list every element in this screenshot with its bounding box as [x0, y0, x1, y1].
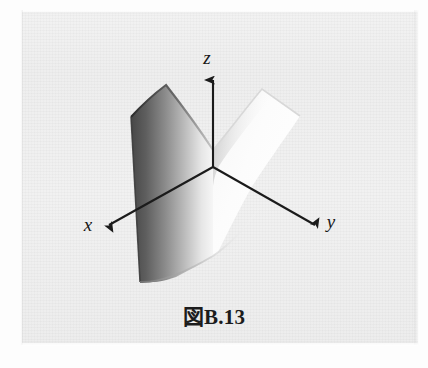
figure-caption: 図B.13: [0, 300, 428, 330]
surface-mesh: [131, 85, 300, 282]
y-axis-label: y: [325, 211, 336, 232]
figure-container: z x y 図B.13: [0, 0, 428, 368]
surface-front-face: [131, 85, 213, 282]
x-axis-label: x: [83, 214, 93, 235]
z-axis-label: z: [202, 47, 211, 68]
